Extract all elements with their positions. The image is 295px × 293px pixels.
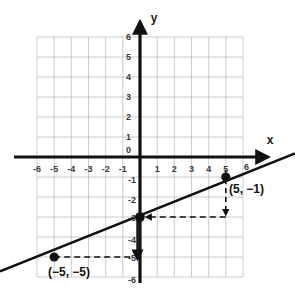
y-tick: -2	[128, 195, 136, 205]
point-y-intercept	[135, 212, 145, 222]
x-tick: 6	[244, 162, 249, 172]
y-tick: -3	[128, 213, 136, 223]
y-tick: -5	[128, 253, 136, 263]
point-label-upper-right: (5, −1)	[229, 182, 264, 196]
y-tick: 3	[126, 92, 131, 102]
x-tick: -5	[50, 164, 58, 174]
y-tick: 1	[126, 132, 131, 142]
x-tick: -3	[84, 164, 92, 174]
y-tick: 0	[126, 145, 131, 155]
y-tick: -6	[128, 275, 136, 285]
y-tick: 2	[126, 112, 131, 122]
y-tick: 4	[126, 72, 131, 82]
x-tick: 1	[155, 164, 160, 174]
axis-lines	[14, 22, 268, 283]
y-tick: -1	[128, 175, 136, 185]
y-tick: 5	[126, 52, 131, 62]
plotted-line	[0, 153, 295, 271]
x-tick: -2	[102, 164, 110, 174]
x-tick: 3	[189, 164, 194, 174]
x-tick: 4	[206, 164, 211, 174]
y-axis-label: y	[151, 11, 158, 25]
point-lower-left	[50, 252, 59, 261]
x-tick: 2	[172, 164, 177, 174]
x-tick: -1	[119, 164, 127, 174]
y-tick: -4	[128, 235, 136, 245]
y-tick: 6	[126, 32, 131, 42]
coordinate-plane-figure: y x -6 -5 -4 -3 -2 -1 1 2 3 4 5 6 6 5 4 …	[0, 0, 295, 293]
point-label-lower-left: (−5, −5)	[48, 265, 90, 279]
x-tick: 5	[223, 164, 228, 174]
x-tick: -6	[33, 164, 41, 174]
x-axis-label: x	[267, 133, 274, 147]
graph-canvas: y x -6 -5 -4 -3 -2 -1 1 2 3 4 5 6 6 5 4 …	[0, 0, 295, 293]
x-tick: -4	[67, 164, 75, 174]
